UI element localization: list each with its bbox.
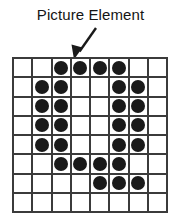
pixel-cell-empty xyxy=(110,194,129,213)
pixel-cell-empty xyxy=(149,78,168,97)
pixel-cell-filled xyxy=(91,155,110,174)
pixel-cell-filled xyxy=(110,136,129,155)
pixel-cell-filled xyxy=(110,175,129,194)
pixel-cell-filled xyxy=(130,98,149,117)
pixel-cell-filled xyxy=(91,59,110,78)
pixel-cell-filled xyxy=(110,117,129,136)
pixel-cell-empty xyxy=(91,98,110,117)
pixel-cell-empty xyxy=(91,194,110,213)
pixel-cell-empty xyxy=(53,175,72,194)
pixel-cell-empty xyxy=(14,155,33,174)
figure-caption: Picture Element xyxy=(0,6,181,24)
pixel-cell-filled xyxy=(53,98,72,117)
pixel-cell-filled xyxy=(53,155,72,174)
pixel-cell-filled xyxy=(33,78,52,97)
pixel-cell-empty xyxy=(72,194,91,213)
pixel-cell-empty xyxy=(14,98,33,117)
pixel-cell-filled xyxy=(110,155,129,174)
pixel-cell-empty xyxy=(14,117,33,136)
pixel-cell-filled xyxy=(130,175,149,194)
pixel-cell-filled xyxy=(130,117,149,136)
pixel-cell-empty xyxy=(33,59,52,78)
pixel-cell-filled xyxy=(91,175,110,194)
pixel-cell-empty xyxy=(72,175,91,194)
pixel-cell-empty xyxy=(14,175,33,194)
pixel-cell-filled xyxy=(53,59,72,78)
pixel-cell-empty xyxy=(14,194,33,213)
pixel-cell-empty xyxy=(149,136,168,155)
pixel-cell-filled xyxy=(33,117,52,136)
pixel-cell-empty xyxy=(149,175,168,194)
pixel-cell-filled xyxy=(72,59,91,78)
arrow-down-left-icon xyxy=(72,28,97,60)
pixel-cell-empty xyxy=(14,59,33,78)
pixel-cell-empty xyxy=(14,136,33,155)
pixel-cell-filled xyxy=(110,98,129,117)
pixel-cell-empty xyxy=(33,175,52,194)
pixel-cell-empty xyxy=(91,117,110,136)
pixel-cell-filled xyxy=(53,78,72,97)
pixel-cell-empty xyxy=(72,98,91,117)
picture-element-figure: Picture Element xyxy=(0,0,181,223)
pixel-cell-empty xyxy=(91,78,110,97)
pixel-cell-empty xyxy=(53,194,72,213)
pixel-cell-empty xyxy=(149,98,168,117)
pixel-cell-filled xyxy=(53,117,72,136)
pixel-cell-empty xyxy=(72,78,91,97)
pixel-cell-empty xyxy=(72,117,91,136)
pixel-cell-filled xyxy=(130,78,149,97)
pixel-cell-filled xyxy=(33,98,52,117)
pixel-cell-empty xyxy=(33,155,52,174)
pixel-cell-empty xyxy=(14,78,33,97)
pixel-cell-empty xyxy=(130,194,149,213)
pixel-cell-filled xyxy=(33,136,52,155)
pixel-cell-filled xyxy=(130,136,149,155)
pixel-cell-empty xyxy=(91,136,110,155)
pixel-cell-empty xyxy=(72,136,91,155)
pixel-cell-empty xyxy=(130,155,149,174)
pixel-cell-empty xyxy=(149,155,168,174)
pixel-cell-empty xyxy=(130,59,149,78)
pixel-cell-filled xyxy=(110,78,129,97)
pixel-cell-empty xyxy=(149,194,168,213)
pixel-cell-empty xyxy=(149,117,168,136)
pixel-grid xyxy=(12,57,168,213)
pixel-cell-filled xyxy=(53,136,72,155)
pixel-cell-filled xyxy=(110,59,129,78)
pixel-cell-filled xyxy=(72,155,91,174)
pixel-cell-empty xyxy=(33,194,52,213)
pixel-cell-empty xyxy=(149,59,168,78)
